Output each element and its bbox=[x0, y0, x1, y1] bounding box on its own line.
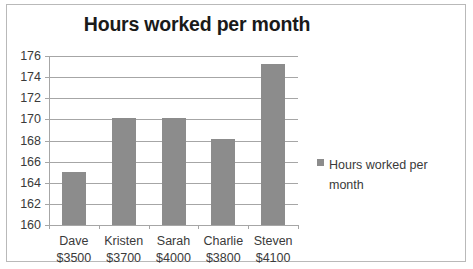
x-tick-label-name: Charlie bbox=[203, 233, 243, 250]
y-tick-label: 170 bbox=[20, 112, 41, 126]
x-tick-label-name: Kristen bbox=[104, 233, 143, 250]
y-tick-mark bbox=[45, 77, 49, 78]
y-tick-label: 174 bbox=[20, 70, 41, 84]
y-tick-mark bbox=[45, 119, 49, 120]
y-tick-mark bbox=[45, 204, 49, 205]
y-tick-label: 172 bbox=[20, 91, 41, 105]
y-tick-mark bbox=[45, 162, 49, 163]
x-tick-mark bbox=[248, 225, 249, 229]
legend-entry-label: Hours worked per month bbox=[329, 155, 441, 195]
y-tick-mark bbox=[45, 98, 49, 99]
chart-legend: Hours worked per month bbox=[317, 155, 457, 195]
bar bbox=[112, 118, 136, 225]
bar bbox=[261, 64, 285, 225]
y-tick-mark bbox=[45, 141, 49, 142]
x-tick-mark bbox=[49, 225, 50, 229]
x-tick-mark bbox=[149, 225, 150, 229]
x-tick-mark bbox=[198, 225, 199, 229]
y-tick-label: 166 bbox=[20, 155, 41, 169]
x-tick-label-name: Sarah bbox=[156, 233, 191, 250]
x-tick-label-name: Steven bbox=[254, 233, 293, 250]
bar bbox=[211, 139, 235, 225]
y-tick-label: 176 bbox=[20, 49, 41, 63]
y-tick-label: 164 bbox=[20, 176, 41, 190]
x-tick-label-name: Dave bbox=[57, 233, 92, 250]
x-tick-label-salary: $4000 bbox=[156, 250, 191, 267]
y-tick-label: 168 bbox=[20, 134, 41, 148]
plot-area: 176174172170168166164162160 Dave$3500Kri… bbox=[49, 56, 298, 225]
y-tick-mark bbox=[45, 183, 49, 184]
legend-swatch-icon bbox=[317, 159, 324, 166]
gridline bbox=[49, 56, 298, 57]
x-tick-label-salary: $3700 bbox=[104, 250, 143, 267]
x-tick-label-salary: $3800 bbox=[203, 250, 243, 267]
x-tick-label-group: Steven$4100 bbox=[254, 233, 293, 267]
y-tick-mark bbox=[45, 56, 49, 57]
bar bbox=[162, 118, 186, 225]
x-tick-label-group: Dave$3500 bbox=[57, 233, 92, 267]
chart-container: Hours worked per month 17617417217016816… bbox=[6, 4, 466, 262]
x-tick-label-group: Kristen$3700 bbox=[104, 233, 143, 267]
x-tick-label-salary: $3500 bbox=[57, 250, 92, 267]
gridline bbox=[49, 225, 298, 226]
chart-title: Hours worked per month bbox=[7, 13, 387, 36]
bar bbox=[62, 172, 86, 225]
y-tick-label: 162 bbox=[20, 197, 41, 211]
x-tick-label-group: Sarah$4000 bbox=[156, 233, 191, 267]
x-tick-label-salary: $4100 bbox=[254, 250, 293, 267]
x-tick-mark bbox=[298, 225, 299, 229]
x-tick-label-group: Charlie$3800 bbox=[203, 233, 243, 267]
x-tick-mark bbox=[99, 225, 100, 229]
y-tick-label: 160 bbox=[20, 218, 41, 232]
